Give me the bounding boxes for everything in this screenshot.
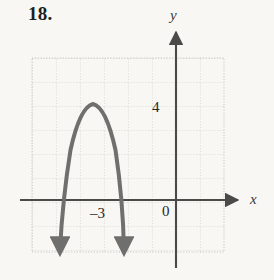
x-axis-label: x xyxy=(250,192,257,207)
origin-tick-label-0: 0 xyxy=(162,204,170,219)
y-axis-label: y xyxy=(170,8,177,23)
graph-figure: 18. y x 4 0 –3 xyxy=(0,0,274,280)
y-tick-label-4: 4 xyxy=(152,100,160,115)
x-tick-label-negative-3: –3 xyxy=(90,206,105,221)
plot-canvas xyxy=(0,0,274,280)
